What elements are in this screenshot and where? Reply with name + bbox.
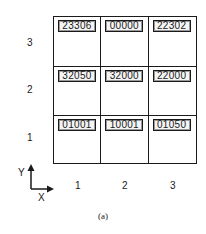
grid-cell-r1-c1: 01001: [54, 116, 101, 163]
col-label-3: 3: [170, 181, 176, 191]
y-axis-label: Y: [18, 168, 25, 178]
cell-code-box: 01050: [153, 119, 191, 131]
cell-code-box: 22000: [153, 70, 191, 82]
x-axis-label: X: [38, 193, 45, 203]
cell-code-box: 32000: [105, 70, 143, 82]
cell-code-box: 22302: [153, 20, 191, 32]
cell-grid: 23306 00000 22302 32050 32000 22000 0100…: [53, 16, 197, 164]
col-label-2: 2: [122, 181, 128, 191]
cell-code-box: 32050: [58, 70, 96, 82]
cell-code-box: 10001: [105, 119, 143, 131]
figure-caption: (a): [98, 211, 108, 221]
grid-cell-r2-c1: 32050: [54, 67, 101, 116]
cell-code-box: 23306: [58, 20, 96, 32]
grid-cell-r2-c2: 32000: [101, 67, 148, 116]
row-label-1: 1: [27, 133, 33, 143]
cell-code-box: 01001: [58, 119, 96, 131]
grid-cell-r3-c2: 00000: [101, 17, 148, 67]
grid-cell-r1-c3: 01050: [149, 116, 196, 163]
grid-cell-r1-c2: 10001: [101, 116, 148, 163]
grid-cell-r3-c3: 22302: [149, 17, 196, 67]
grid-cell-r3-c1: 23306: [54, 17, 101, 67]
grid-cell-r2-c3: 22000: [149, 67, 196, 116]
row-label-3: 3: [27, 38, 33, 48]
col-label-1: 1: [75, 181, 81, 191]
cell-code-box: 00000: [105, 20, 143, 32]
row-label-2: 2: [27, 85, 33, 95]
